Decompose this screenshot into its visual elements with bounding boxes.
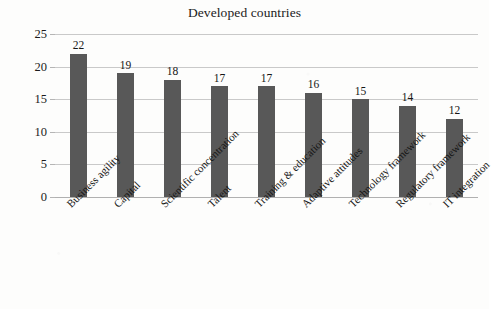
bar[interactable]: 22 <box>70 54 87 197</box>
y-axis-tick-mark <box>50 67 55 68</box>
bar[interactable]: 19 <box>117 73 134 197</box>
y-axis-tick-label: 0 <box>41 191 47 204</box>
y-axis-tick-mark <box>50 34 55 35</box>
y-axis-tick-mark <box>50 197 55 198</box>
bar-value-label: 22 <box>73 40 85 52</box>
y-axis-tick-label: 10 <box>35 126 48 139</box>
x-axis-category-labels: Business agilityCapitalScientific concen… <box>55 202 478 307</box>
plot-area: 0510152025 221918171716151412 <box>55 34 478 197</box>
y-axis-tick-label: 5 <box>41 158 47 171</box>
y-axis-tick-mark <box>50 164 55 165</box>
chart-title: Developed countries <box>0 5 489 21</box>
y-axis-tick-label: 15 <box>35 93 48 106</box>
bar-value-label: 19 <box>120 60 132 72</box>
y-axis-tick-mark <box>50 99 55 100</box>
y-axis-tick-label: 20 <box>35 60 48 73</box>
y-axis-tick-mark <box>50 132 55 133</box>
bar-value-label: 16 <box>308 79 320 91</box>
gridline <box>55 34 478 35</box>
gridline <box>55 67 478 68</box>
bar-value-label: 12 <box>449 105 461 117</box>
y-axis-tick-label: 25 <box>35 28 48 41</box>
bar-value-label: 17 <box>214 73 226 85</box>
bar-value-label: 14 <box>402 92 414 104</box>
bar-value-label: 18 <box>167 66 179 78</box>
bar-value-label: 17 <box>261 73 273 85</box>
bar-value-label: 15 <box>355 86 367 98</box>
